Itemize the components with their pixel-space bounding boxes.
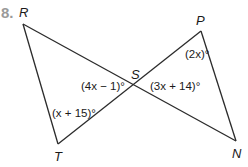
bowtie-triangles-figure: 8. R S P T N (2x)° (4x − 1)° (3x + 14)° … (0, 0, 248, 167)
angle-label-S-right: (3x + 14)° (150, 80, 200, 92)
diagram-canvas: 8. R S P T N (2x)° (4x − 1)° (3x + 14)° … (0, 0, 248, 167)
angle-label-S-left: (4x − 1)° (81, 80, 125, 92)
segment-RT (23, 24, 58, 144)
angle-label-P: (2x)° (185, 48, 209, 60)
problem-number: 8. (1, 4, 14, 21)
angle-label-T: (x + 15)° (52, 107, 96, 119)
vertex-label-P: P (196, 13, 205, 28)
vertex-label-T: T (54, 149, 63, 164)
vertex-label-S: S (131, 67, 140, 82)
vertex-label-N: N (232, 146, 242, 161)
vertex-label-R: R (19, 5, 28, 20)
